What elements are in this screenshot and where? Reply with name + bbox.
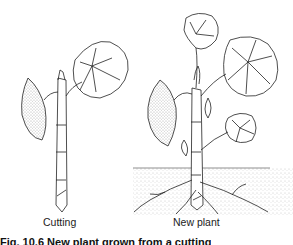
new-plant-label: New plant	[173, 216, 220, 228]
cutting-label: Cutting	[43, 216, 76, 228]
soil	[133, 168, 293, 216]
figure-illustration: Cutting New plant Fig. 10.6 New plant gr…	[0, 0, 293, 245]
plant-cutting-illustration-icon	[0, 0, 293, 245]
cutting-drawing	[22, 41, 129, 212]
figure-caption: Fig. 10.6 New plant grown from a cutting	[0, 236, 211, 245]
